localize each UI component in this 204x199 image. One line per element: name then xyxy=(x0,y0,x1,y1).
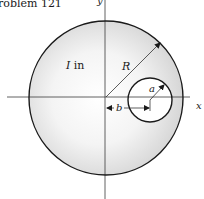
circle-with-hole-diagram: roblem 121 y x I in R a b xyxy=(0,0,204,199)
caption-text: roblem 121 xyxy=(0,0,62,10)
radius-a-label: a xyxy=(149,83,155,94)
moment-suffix: in xyxy=(70,59,84,72)
diagram-canvas: roblem 121 y x I in R a b xyxy=(0,0,204,199)
x-axis-label: x xyxy=(196,100,202,111)
y-axis-label: y xyxy=(96,0,103,6)
offset-b-label: b xyxy=(116,102,122,113)
moment-label: I in xyxy=(65,59,84,72)
radius-R-label: R xyxy=(121,60,130,73)
